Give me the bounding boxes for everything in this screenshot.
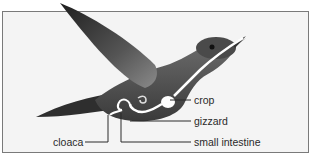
- eye: [210, 45, 215, 50]
- gizzard-label: gizzard: [194, 115, 228, 127]
- crop-shape: [161, 96, 175, 108]
- hummingbird-illustration: [0, 0, 315, 162]
- beak: [232, 36, 246, 48]
- small-intestine-label: small intestine: [194, 136, 261, 148]
- crop-label: crop: [194, 94, 214, 106]
- wing: [60, 3, 157, 88]
- cloaca-leader: [85, 115, 108, 142]
- cloaca-label: cloaca: [53, 136, 83, 148]
